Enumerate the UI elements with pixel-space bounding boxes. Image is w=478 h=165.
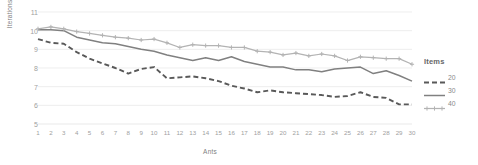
x-tick-label: 13	[189, 129, 196, 136]
x-tick-label: 1	[36, 129, 39, 136]
series-marker-40	[320, 52, 324, 56]
legend-swatch-40	[424, 99, 445, 108]
series-marker-40	[49, 25, 53, 29]
series-marker-40	[242, 45, 246, 49]
x-tick-label: 14	[202, 129, 209, 136]
series-marker-40	[371, 56, 375, 60]
series-marker-40	[294, 51, 298, 55]
x-tick-label: 9	[139, 129, 142, 136]
series-marker-40	[113, 35, 117, 39]
legend-label-40: 40	[448, 100, 456, 107]
series-marker-40	[345, 58, 349, 62]
x-tick-label: 23	[318, 129, 325, 136]
x-tick-label: 4	[75, 129, 78, 136]
x-tick-label: 21	[292, 129, 299, 136]
series-marker-40	[255, 49, 259, 53]
x-tick-label: 2	[49, 129, 52, 136]
series-marker-40	[204, 44, 208, 48]
series-marker-40	[358, 55, 362, 59]
x-tick-label: 8	[127, 129, 130, 136]
series-line-20	[38, 39, 412, 104]
legend-item-30[interactable]: 30	[424, 84, 478, 97]
x-tick-label: 28	[383, 129, 390, 136]
x-tick-label: 3	[62, 129, 65, 136]
x-tick-label: 17	[241, 129, 248, 136]
x-tick-label: 25	[344, 129, 351, 136]
series-marker-40	[152, 37, 156, 41]
series-marker-40	[126, 36, 130, 40]
x-tick-label: 26	[357, 129, 364, 136]
legend-label-30: 30	[448, 87, 456, 94]
legend-swatch-20	[424, 73, 445, 82]
x-tick-label: 20	[280, 129, 287, 136]
series-line-30	[38, 30, 412, 81]
series-marker-40	[410, 62, 414, 66]
series-marker-40	[281, 53, 285, 57]
x-tick-label: 27	[370, 129, 377, 136]
x-tick-label: 22	[305, 129, 312, 136]
series-marker-40	[191, 43, 195, 47]
series-marker-40	[139, 38, 143, 42]
legend-item-20[interactable]: 20	[424, 71, 478, 84]
series-marker-40	[268, 50, 272, 54]
x-tick-label: 11	[164, 129, 170, 136]
legend-item-40[interactable]: 40	[424, 97, 478, 110]
x-axis-title: Ants	[0, 148, 420, 155]
x-tick-label: 15	[215, 129, 222, 136]
x-tick-label: 19	[267, 129, 274, 136]
x-tick-label: 29	[396, 129, 403, 136]
plot-area	[0, 0, 478, 165]
x-tick-label: 16	[228, 129, 235, 136]
line-chart: Iterations 567891011 1234567891011121314…	[0, 0, 478, 165]
legend-title: Items	[424, 57, 478, 66]
series-marker-40	[216, 44, 220, 48]
x-tick-label: 12	[176, 129, 183, 136]
series-marker-40	[229, 45, 233, 49]
x-tick-label: 6	[101, 129, 104, 136]
series-marker-40	[333, 54, 337, 58]
x-tick-label: 30	[409, 129, 416, 136]
legend-label-20: 20	[448, 74, 456, 81]
series-marker-40	[307, 54, 311, 58]
legend-swatch-30	[424, 86, 445, 95]
x-tick-label: 5	[88, 129, 91, 136]
series-marker-40	[178, 45, 182, 49]
x-tick-label: 24	[331, 129, 338, 136]
series-marker-40	[100, 33, 104, 37]
series-marker-40	[397, 57, 401, 61]
series-marker-40	[165, 41, 169, 45]
x-tick-label: 18	[254, 129, 261, 136]
x-tick-label: 10	[151, 129, 158, 136]
series-marker-40	[87, 31, 91, 35]
x-tick-label: 7	[114, 129, 117, 136]
series-marker-40	[75, 30, 79, 34]
legend: Items 203040	[424, 57, 478, 110]
series-marker-40	[384, 57, 388, 61]
